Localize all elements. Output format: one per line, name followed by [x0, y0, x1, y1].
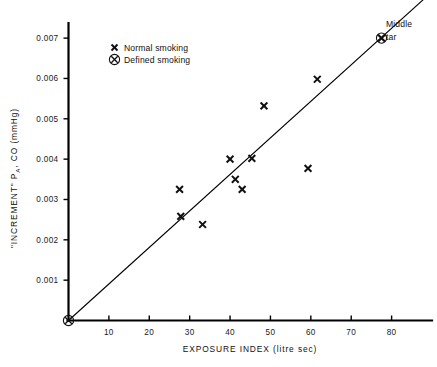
data-point: [248, 155, 255, 162]
x-axis-title-group: EXPOSURE INDEX (litre sec): [183, 344, 318, 354]
y-axis-tick-labels: 0.0010.0020.0030.0040.0050.0060.007: [36, 34, 58, 285]
legend-item-normal-smoking: Normal smoking: [112, 43, 189, 53]
legend-label-defined-smoking: Defined smoking: [124, 55, 190, 65]
legend: Normal smoking Defined smoking: [109, 43, 190, 65]
x-tick-label: 10: [104, 328, 114, 337]
cross-icon: [112, 45, 118, 51]
x-axis-title: EXPOSURE INDEX (litre sec): [183, 344, 318, 354]
y-tick-label: 0.001: [36, 276, 58, 285]
scatter-chart-figure: 0.0010.0020.0030.0040.0050.0060.007 1020…: [0, 0, 437, 367]
data-point: [239, 186, 246, 193]
data-point: [261, 102, 268, 109]
y-tick-label: 0.004: [36, 155, 58, 164]
y-tick-label: 0.002: [36, 236, 58, 245]
data-point: [314, 76, 321, 83]
data-point: [305, 165, 312, 172]
data-point: [199, 221, 206, 228]
y-tick-label: 0.005: [36, 115, 58, 124]
y-tick-label: 0.006: [36, 74, 58, 83]
middle-tar-label-line2: tar: [386, 32, 396, 42]
y-axis-title-suffix: , CO (mmHg): [9, 108, 19, 168]
data-point: [227, 156, 234, 163]
legend-item-defined-smoking: Defined smoking: [109, 54, 190, 65]
x-tick-label: 20: [144, 328, 154, 337]
y-axis-title-prefix: "INCREMENT" P: [9, 173, 19, 248]
middle-tar-label-line1: Middle: [386, 19, 412, 29]
circled-cross-icon: [109, 54, 119, 64]
x-tick-label: 70: [346, 328, 356, 337]
x-tick-label: 60: [306, 328, 316, 337]
y-tick-label: 0.007: [36, 34, 58, 43]
x-tick-label: 50: [266, 328, 276, 337]
y-axis-title: "INCREMENT" PA, CO (mmHg): [9, 108, 21, 248]
data-point: [232, 176, 239, 183]
y-tick-label: 0.003: [36, 195, 58, 204]
y-axis-title-group: "INCREMENT" PA, CO (mmHg): [9, 108, 21, 248]
x-tick-label: 40: [225, 328, 235, 337]
axes-group: [68, 23, 433, 321]
x-tick-label: 80: [387, 328, 397, 337]
data-point: [176, 186, 183, 193]
data-points-normal-smoking: [176, 35, 385, 228]
plot-canvas: 0.0010.0020.0030.0040.0050.0060.007 1020…: [0, 0, 437, 367]
legend-label-normal-smoking: Normal smoking: [124, 43, 188, 53]
x-axis-tick-labels: 1020304050607080: [104, 328, 397, 337]
x-tick-label: 30: [185, 328, 195, 337]
